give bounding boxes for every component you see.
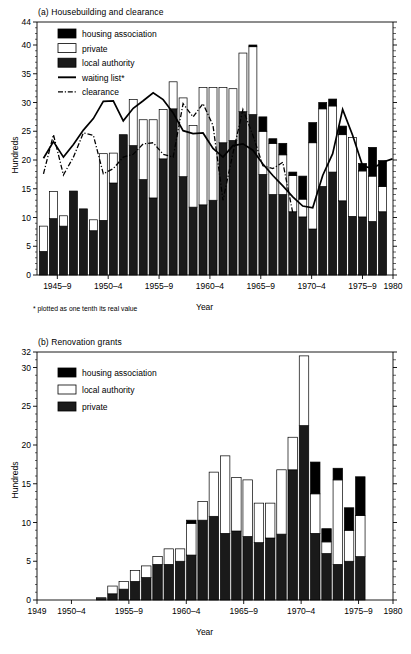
x-tick-label: 1960–4 [172, 606, 201, 616]
bar-segment [209, 472, 218, 516]
bar-segment [329, 99, 337, 106]
legend-label: housing association [82, 368, 157, 378]
bar-segment [49, 219, 57, 275]
bar-segment [209, 516, 218, 600]
bar-segment [329, 172, 337, 275]
bar-segment [198, 520, 207, 600]
y-tick-label: 10 [22, 213, 32, 223]
bar-segment [169, 82, 177, 109]
y-tick-label: 35 [22, 69, 32, 79]
bar-segment [175, 549, 184, 561]
bar-segment [333, 480, 342, 564]
bar-segment [265, 503, 274, 538]
legend-swatch [58, 402, 76, 411]
legend-swatch [58, 44, 76, 53]
bar-segment [179, 177, 187, 275]
x-tick-label: 1970–4 [297, 281, 326, 291]
bar-segment [130, 581, 139, 600]
x-tick-label: 1970–4 [287, 606, 316, 616]
legend: housing associationprivatelocal authorit… [58, 29, 157, 97]
bar-segment [69, 191, 77, 275]
bar-segment [344, 561, 353, 600]
bar-segment [159, 159, 167, 275]
bar-segment [153, 564, 162, 600]
bar-segment [89, 231, 97, 275]
bar-segment [119, 589, 128, 600]
x-tick-label: 1950–4 [94, 281, 123, 291]
bar-segment [189, 207, 197, 275]
bar-segment [232, 478, 241, 531]
bar-segment [299, 356, 308, 426]
bar-segment [322, 542, 331, 554]
panel-a-housebuilding: (a) Housebuilding and clearance Hundreds… [0, 0, 411, 330]
bar-segment [333, 564, 342, 600]
bar-segment [359, 217, 367, 275]
bar-segment [149, 120, 157, 198]
bar-segment [269, 139, 277, 144]
panel-b-renovation: (b) Renovation grants Hundreds Year 0510… [0, 330, 411, 654]
bar-segment [39, 251, 47, 275]
bar-segment [109, 153, 117, 183]
bar-segment [187, 523, 196, 555]
legend: housing associationlocal authorityprivat… [58, 368, 157, 412]
bar-segment [259, 117, 267, 131]
bar-segment [344, 508, 353, 530]
bar-segment [356, 557, 365, 600]
bar-segment [179, 98, 187, 177]
x-tick-label: 1975–9 [348, 281, 377, 291]
bar-segment [349, 138, 357, 217]
legend-swatch [58, 385, 76, 394]
x-tick-label: 1945–9 [43, 281, 72, 291]
x-tick-label: 1950–4 [57, 606, 86, 616]
bar-segment [189, 126, 197, 208]
y-tick-label: 32 [22, 347, 32, 357]
bar-segment [187, 555, 196, 600]
bar-segment [309, 123, 317, 143]
bar-segment [289, 212, 297, 275]
bar-segment [349, 216, 357, 275]
y-tick-label: 0 [26, 595, 31, 605]
y-tick-label: 40 [22, 40, 32, 50]
y-tick-label: 25 [22, 401, 32, 411]
bar-segment [322, 554, 331, 601]
bar-segment [339, 135, 347, 201]
bar-segment [379, 186, 387, 211]
bar-segment [108, 586, 117, 594]
bar-segment [149, 198, 157, 275]
bar-segment [259, 174, 267, 275]
bar-segment [311, 462, 320, 494]
bar-segment [220, 533, 229, 600]
bar-segment [239, 53, 247, 112]
bar-segment [239, 112, 247, 275]
legend-label: waiting list* [81, 73, 125, 83]
x-tick-label: 1965–9 [247, 281, 276, 291]
x-tick-label: 1980 [384, 281, 403, 291]
bar-segment [220, 456, 229, 533]
bar-segment [339, 126, 347, 135]
bar-segment [277, 470, 286, 534]
y-tick-label: 5 [26, 241, 31, 251]
x-tick-label: 1949 [28, 606, 47, 616]
bar-segment [288, 437, 297, 470]
x-tick-label: 1965–9 [230, 606, 259, 616]
bar-segment [356, 516, 365, 557]
bar-segment [187, 520, 196, 523]
bar-segment [299, 426, 308, 600]
bar-segment [369, 222, 377, 275]
bar-segment [299, 199, 307, 217]
x-tick-label: 1975–9 [344, 606, 373, 616]
y-tick-label: 30 [22, 98, 32, 108]
bar-segment [243, 536, 252, 600]
bar-segment [277, 534, 286, 600]
bar-segment [99, 220, 107, 275]
panel-b-plot: 0510152025303219491950–41955–91960–41965… [0, 330, 411, 654]
bar-segment [79, 209, 87, 275]
bar-segment [96, 598, 105, 599]
bar-segment [311, 533, 320, 600]
legend-label: local authority [82, 58, 135, 68]
bar-segment [229, 140, 237, 275]
bar-segment [299, 217, 307, 275]
y-tick-label: 15 [22, 479, 32, 489]
legend-label: housing association [82, 29, 157, 39]
bar-segment [39, 226, 47, 251]
